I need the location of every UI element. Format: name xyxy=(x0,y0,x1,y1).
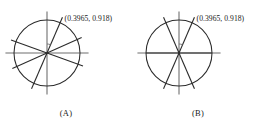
panel-a: (0.3965, 0.918) (A) xyxy=(0,0,132,128)
figure-root: (0.3965, 0.918) (A) (0.3965, 0.918) (B) xyxy=(0,0,264,128)
panel-b-caption: (B) xyxy=(132,108,264,118)
coordinate-label: (0.3965, 0.918) xyxy=(65,14,113,23)
panel-a-caption: (A) xyxy=(0,108,132,118)
panel-b: (0.3965, 0.918) (B) xyxy=(132,0,264,128)
coordinate-label: (0.3965, 0.918) xyxy=(197,14,245,23)
